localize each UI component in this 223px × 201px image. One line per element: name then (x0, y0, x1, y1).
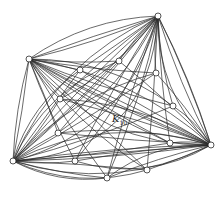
graph-vertex (116, 58, 122, 64)
graph-edge (13, 73, 156, 161)
graph-vertex (155, 13, 161, 19)
graph-vertex (208, 142, 214, 148)
graph-vertex (144, 167, 150, 173)
graph-edge (13, 73, 156, 161)
graph-vertex (55, 130, 61, 136)
graph-edge (58, 16, 158, 133)
complete-graph-diagram: K10 (0, 0, 223, 201)
graph-vertex (104, 175, 110, 181)
graph-vertex (10, 158, 16, 164)
graph-edge (58, 16, 158, 133)
graph-vertex (153, 70, 159, 76)
graph-vertex (167, 140, 173, 146)
graph-vertex (170, 103, 176, 109)
graph-edge (29, 59, 173, 106)
graph-vertex (57, 96, 63, 102)
graph-vertex (72, 158, 78, 164)
graph-label: K10 (112, 113, 127, 126)
graph-canvas (0, 0, 223, 201)
graph-vertex (26, 56, 32, 62)
graph-vertex (77, 67, 83, 73)
graph-edge (29, 59, 173, 106)
